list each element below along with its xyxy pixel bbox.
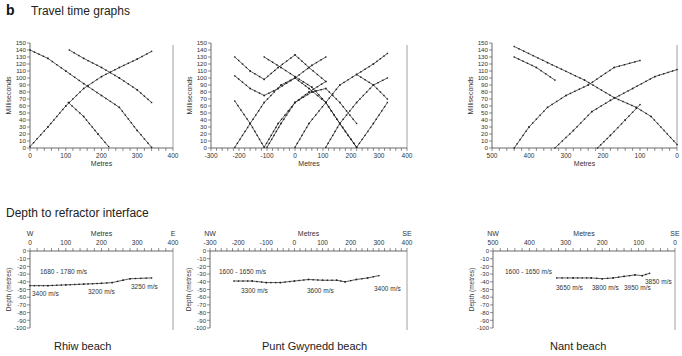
svg-text:-70: -70 xyxy=(197,302,206,308)
svg-text:-80: -80 xyxy=(17,310,26,316)
data-series xyxy=(326,103,388,148)
svg-text:W: W xyxy=(27,230,34,237)
svg-text:Metres: Metres xyxy=(573,230,595,237)
svg-text:150: 150 xyxy=(197,39,208,46)
velocity-annotation: 1600 - 1650 m/s xyxy=(219,268,267,275)
svg-text:Metres: Metres xyxy=(298,160,320,167)
svg-text:50: 50 xyxy=(200,109,207,116)
svg-text:Depth (metres): Depth (metres) xyxy=(5,268,13,311)
svg-text:50: 50 xyxy=(19,109,26,116)
svg-text:10: 10 xyxy=(19,137,26,144)
svg-text:100: 100 xyxy=(60,152,71,159)
svg-text:-200: -200 xyxy=(232,239,245,246)
svg-text:140: 140 xyxy=(16,46,27,53)
chart-panel-4: 0-10-20-30-40-50-60-70-80-90-100-300-200… xyxy=(185,230,413,331)
svg-text:0: 0 xyxy=(293,152,297,159)
svg-text:400: 400 xyxy=(168,152,179,159)
svg-text:200: 200 xyxy=(597,239,608,246)
data-series xyxy=(514,61,640,149)
svg-text:Depth (metres): Depth (metres) xyxy=(185,268,193,311)
svg-text:-100: -100 xyxy=(260,239,273,246)
svg-text:90: 90 xyxy=(200,81,207,88)
velocity-annotation: 3850 m/s xyxy=(645,278,672,285)
svg-text:0: 0 xyxy=(204,144,208,151)
svg-text:300: 300 xyxy=(560,239,571,246)
velocity-annotation: 3400 m/s xyxy=(374,285,401,292)
svg-text:-10: -10 xyxy=(17,256,26,262)
svg-text:-20: -20 xyxy=(17,264,26,270)
svg-text:NW: NW xyxy=(204,230,216,237)
svg-text:70: 70 xyxy=(481,95,488,102)
svg-text:150: 150 xyxy=(478,39,489,46)
velocity-annotation: 3300 m/s xyxy=(241,287,268,294)
svg-text:100: 100 xyxy=(635,152,646,159)
svg-text:-20: -20 xyxy=(197,264,206,270)
svg-text:-10: -10 xyxy=(480,256,489,262)
data-series xyxy=(557,273,650,278)
data-series xyxy=(326,78,388,147)
svg-text:100: 100 xyxy=(197,74,208,81)
svg-text:200: 200 xyxy=(345,239,356,246)
data-series xyxy=(555,70,677,148)
svg-text:200: 200 xyxy=(598,152,609,159)
svg-text:0: 0 xyxy=(28,152,32,159)
chart-panel-3: 0-10-20-30-40-50-60-70-80-90-10001002003… xyxy=(5,230,179,331)
svg-text:-60: -60 xyxy=(197,294,206,300)
svg-text:Depth (metres): Depth (metres) xyxy=(468,268,476,311)
svg-text:0: 0 xyxy=(675,152,679,159)
svg-text:Milliseconds: Milliseconds xyxy=(186,76,193,115)
data-series xyxy=(267,89,357,148)
chart-panel-2: 0102030405060708090100110120130140150500… xyxy=(467,39,679,167)
svg-text:Metres: Metres xyxy=(91,230,113,237)
svg-text:-100: -100 xyxy=(14,325,27,331)
svg-text:-100: -100 xyxy=(477,325,490,331)
data-series xyxy=(514,47,677,145)
svg-text:40: 40 xyxy=(200,116,207,123)
svg-text:100: 100 xyxy=(317,239,328,246)
svg-text:400: 400 xyxy=(402,239,413,246)
data-series xyxy=(68,103,108,147)
svg-text:-300: -300 xyxy=(203,239,216,246)
svg-text:-50: -50 xyxy=(197,287,206,293)
svg-text:300: 300 xyxy=(132,239,143,246)
svg-text:20: 20 xyxy=(19,130,26,137)
svg-text:-20: -20 xyxy=(480,264,489,270)
svg-text:400: 400 xyxy=(168,239,179,246)
svg-text:-90: -90 xyxy=(17,318,26,324)
svg-text:200: 200 xyxy=(96,239,107,246)
svg-text:100: 100 xyxy=(318,152,329,159)
svg-text:-90: -90 xyxy=(480,318,489,324)
svg-text:300: 300 xyxy=(132,152,143,159)
velocity-annotation: 3400 m/s xyxy=(32,290,59,297)
svg-text:-40: -40 xyxy=(17,279,26,285)
svg-text:60: 60 xyxy=(19,102,26,109)
svg-text:-60: -60 xyxy=(480,294,489,300)
data-series xyxy=(264,57,356,147)
svg-text:0: 0 xyxy=(203,248,207,254)
svg-text:300: 300 xyxy=(561,152,572,159)
velocity-annotation: 3650 m/s xyxy=(556,284,583,291)
svg-text:-30: -30 xyxy=(17,271,26,277)
data-series xyxy=(234,276,379,283)
svg-text:110: 110 xyxy=(197,67,207,74)
svg-text:80: 80 xyxy=(481,88,488,95)
svg-text:-30: -30 xyxy=(480,271,489,277)
chart-panel-0: 0102030405060708090100110120130140150010… xyxy=(5,39,179,167)
svg-text:130: 130 xyxy=(478,53,489,60)
svg-text:110: 110 xyxy=(478,67,488,74)
svg-text:E: E xyxy=(171,230,176,237)
svg-text:80: 80 xyxy=(19,88,26,95)
chart-panel-1: 0102030405060708090100110120130140150-30… xyxy=(186,39,413,167)
velocity-annotation: 3250 m/s xyxy=(131,283,158,290)
svg-text:10: 10 xyxy=(481,137,488,144)
data-series xyxy=(514,57,555,80)
svg-text:0: 0 xyxy=(23,248,27,254)
svg-text:300: 300 xyxy=(374,152,385,159)
svg-text:60: 60 xyxy=(481,102,488,109)
svg-text:30: 30 xyxy=(200,123,207,130)
svg-text:100: 100 xyxy=(478,74,489,81)
svg-text:130: 130 xyxy=(16,53,27,60)
velocity-annotation: 3200 m/s xyxy=(88,288,115,295)
svg-text:Milliseconds: Milliseconds xyxy=(467,76,474,115)
svg-text:70: 70 xyxy=(19,95,26,102)
